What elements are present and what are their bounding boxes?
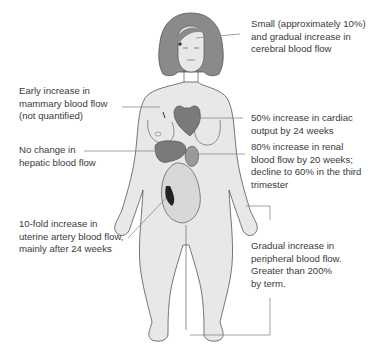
annotation-uterine: 10-fold increase in uterine artery blood… bbox=[19, 218, 124, 256]
annotation-peripheral: Gradual increase in peripheral blood flo… bbox=[251, 240, 342, 290]
annotation-cardiac: 50% increase in cardiac output by 24 wee… bbox=[251, 112, 353, 137]
annotation-renal: 80% increase in renal blood flow by 20 w… bbox=[251, 141, 361, 191]
annotation-mammary: Early increase in mammary blood flow (no… bbox=[19, 85, 108, 123]
kidney bbox=[185, 146, 198, 166]
brain-marker bbox=[178, 42, 182, 46]
annotation-cerebral: Small (approximately 10%) and gradual in… bbox=[251, 18, 366, 56]
annotation-hepatic: No change in hepatic blood flow bbox=[19, 144, 96, 169]
